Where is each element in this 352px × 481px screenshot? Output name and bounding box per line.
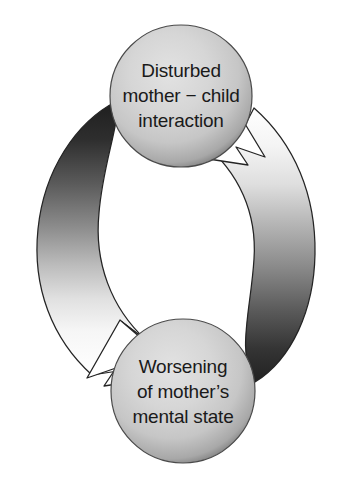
worsening-mental-state-node: Worsening of mother’s mental state	[111, 319, 255, 463]
disturbed-interaction-line-2: mother − child	[122, 85, 239, 106]
worsening-mental-state-line-3: mental state	[132, 406, 233, 427]
disturbed-interaction-line-3: interaction	[138, 110, 223, 131]
cycle-diagram-canvas: Disturbed mother − child interaction Wor…	[0, 0, 352, 481]
worsening-mental-state-line-1: Worsening	[139, 356, 228, 377]
disturbed-interaction-node: Disturbed mother − child interaction	[110, 25, 252, 167]
worsening-mental-state-line-2: of mother’s	[137, 381, 229, 402]
cycle-diagram: Disturbed mother − child interaction Wor…	[0, 0, 352, 481]
disturbed-interaction-line-1: Disturbed	[141, 60, 221, 81]
